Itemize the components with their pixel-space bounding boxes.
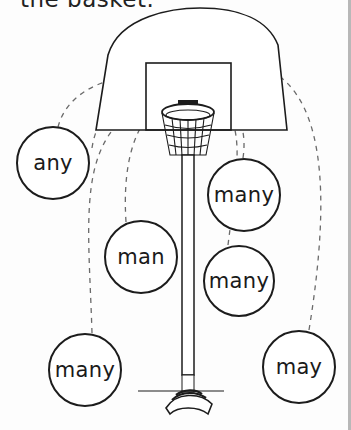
word-label: many xyxy=(55,358,115,382)
worksheet-page: the basket. xyxy=(0,0,351,430)
word-label: many xyxy=(209,269,269,293)
word-circle-man[interactable]: man xyxy=(104,220,178,294)
word-circle-any[interactable]: any xyxy=(16,126,90,200)
word-label: any xyxy=(33,151,73,175)
word-label: man xyxy=(117,245,165,269)
word-label: many xyxy=(214,183,274,207)
word-circle-many-3[interactable]: many xyxy=(48,333,122,407)
word-circle-many-2[interactable]: many xyxy=(203,245,275,317)
word-circle-may[interactable]: may xyxy=(262,330,336,404)
word-circle-many-1[interactable]: many xyxy=(207,158,281,232)
word-label: may xyxy=(276,355,323,379)
